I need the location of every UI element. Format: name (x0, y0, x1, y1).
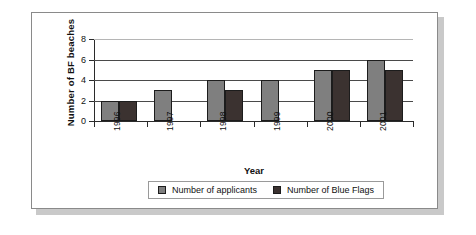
x-axis-title: Year (94, 165, 414, 176)
x-tick-label-1999: 1999 (272, 97, 282, 131)
gridline-2 (94, 101, 413, 102)
legend-label-2: Number of Blue Flags (287, 185, 374, 195)
x-tick-2000 (307, 122, 308, 127)
legend-entry-1: Number of applicants (158, 185, 257, 195)
y-tick-label-4: 4 (68, 76, 86, 85)
legend-swatch-1 (158, 186, 166, 194)
y-tick-4 (89, 80, 94, 81)
y-tick-2 (89, 101, 94, 102)
y-tick-0 (89, 121, 94, 122)
y-axis-tick-labels: 02468 (62, 13, 86, 208)
bar-chart: Number of BF beaches 02468 1996199719981… (32, 13, 437, 208)
gridline-8 (94, 39, 413, 40)
x-tick-label-1998: 1998 (218, 97, 228, 131)
figure-frame: Number of BF beaches 02468 1996199719981… (31, 12, 438, 209)
y-tick-label-2: 2 (68, 97, 86, 106)
gridline-6 (94, 60, 413, 61)
x-tick-end (413, 122, 414, 127)
plot-area (94, 39, 413, 121)
gridline-4 (94, 80, 413, 81)
x-tick-label-1996: 1996 (112, 97, 122, 131)
y-tick-8 (89, 39, 94, 40)
y-tick-label-0: 0 (68, 117, 86, 126)
y-tick-6 (89, 60, 94, 61)
legend-swatch-2 (273, 186, 281, 194)
x-tick-1999 (254, 122, 255, 127)
x-tick-1996 (94, 122, 95, 127)
legend-label-1: Number of applicants (172, 185, 257, 195)
legend-entry-2: Number of Blue Flags (273, 185, 374, 195)
y-tick-label-6: 6 (68, 56, 86, 65)
chart-legend: Number of applicantsNumber of Blue Flags (148, 181, 384, 199)
x-tick-label-2000: 2000 (325, 97, 335, 131)
x-tick-2001 (360, 122, 361, 127)
y-tick-label-8: 8 (68, 35, 86, 44)
x-tick-label-2001: 2001 (378, 97, 388, 131)
x-tick-label-1997: 1997 (165, 97, 175, 131)
x-tick-1997 (147, 122, 148, 127)
x-tick-1998 (200, 122, 201, 127)
bar-1998-series2 (225, 90, 243, 121)
